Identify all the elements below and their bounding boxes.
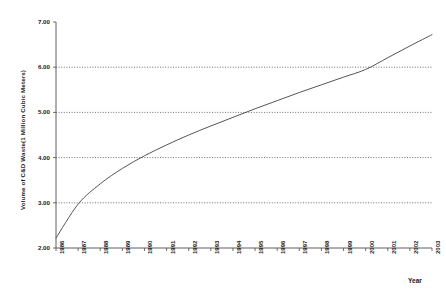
x-tick-label-text: 1989: [125, 241, 131, 254]
x-tick-label-text: 1995: [258, 241, 264, 254]
x-tick-label-text: 1990: [147, 241, 153, 254]
x-tick-label-text: 1997: [302, 241, 308, 254]
x-tick-label-text: 1987: [81, 241, 87, 254]
x-tick-label-text: 1993: [214, 241, 220, 254]
y-tick-label: 3.00: [24, 199, 50, 206]
y-tick-label: 7.00: [24, 18, 50, 25]
y-axis-title: Volume of C&D Waste(1 Million Cubic Mete…: [14, 45, 30, 235]
x-tick-label-text: 1991: [170, 241, 176, 254]
chart-container: Volume of C&D Waste(1 Million Cubic Mete…: [0, 0, 446, 297]
x-axis-title: Year: [408, 277, 422, 284]
y-tick-label: 5.00: [24, 108, 50, 115]
x-tick-label-text: 2000: [369, 241, 375, 254]
y-tick-label: 6.00: [24, 63, 50, 70]
gridlines-group: [56, 67, 432, 203]
axis-lines-group: [56, 22, 432, 248]
y-axis-title-text: Volume of C&D Waste(1 Million Cubic Mete…: [19, 70, 26, 210]
data-series-line: [56, 35, 432, 238]
x-tick-label-text: 1996: [280, 241, 286, 254]
x-tick-label-text: 1992: [192, 241, 198, 254]
x-tick-label-text: 1999: [347, 241, 353, 254]
x-tick-label-text: 1988: [103, 241, 109, 254]
x-tick-label-text: 1986: [59, 241, 65, 254]
x-tick-label-text: 2002: [413, 241, 419, 254]
x-tick-label-text: 2001: [391, 241, 397, 254]
x-tick-label-text: 1994: [236, 241, 242, 254]
y-tick-label: 4.00: [24, 154, 50, 161]
x-tick-label-text: 1998: [324, 241, 330, 254]
x-tick-label-text: 2003: [435, 241, 441, 254]
y-tick-label: 2.00: [24, 244, 50, 251]
chart-plot-area: [0, 0, 446, 297]
